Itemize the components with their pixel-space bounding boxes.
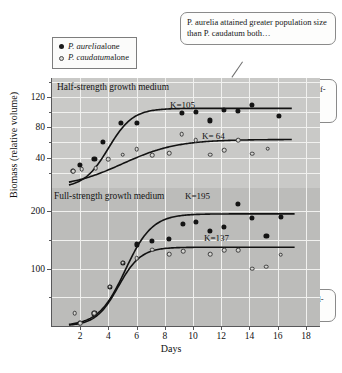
k-label-aurelia-full: K=195 (185, 191, 210, 201)
leader-line-main-callout (231, 61, 243, 78)
data-point-open (278, 252, 283, 257)
data-point-open (106, 157, 111, 162)
logistic-curve (69, 108, 292, 185)
x-tick (193, 326, 194, 330)
legend: P. aurelia alone P. caudatum alone (52, 37, 137, 69)
data-point-open (266, 146, 271, 151)
callout-main-text: P. aurelia attained greater population s… (187, 17, 327, 38)
panel-title-half-strength: Half-strength growth medium (57, 82, 169, 92)
x-tick (137, 326, 138, 330)
x-axis-line (51, 326, 320, 327)
data-point-open (194, 138, 199, 143)
x-tick-label: 6 (134, 331, 139, 341)
x-tick-label: 12 (217, 331, 227, 341)
data-point-open (181, 249, 186, 254)
logistic-curve (69, 140, 292, 183)
filled-circle-icon (59, 44, 64, 49)
plot-area: 246810121416184080120100200 Half-strengt… (52, 78, 320, 326)
open-circle-icon (59, 56, 64, 61)
x-tick-label: 2 (78, 331, 83, 341)
data-point-open (120, 260, 125, 265)
data-point-open (250, 152, 255, 157)
legend-item-suffix: alone (110, 52, 129, 63)
data-point-open (208, 152, 213, 157)
y-tick-label: 80 (36, 122, 46, 132)
data-point-open (179, 132, 184, 137)
logistic-curve (69, 214, 295, 324)
data-point-open (134, 256, 139, 261)
figure-canvas: P. aurelia alone P. caudatum alone P. au… (0, 0, 342, 373)
data-point-open (78, 321, 83, 326)
k-label-caudatum-half: K= 64 (202, 131, 225, 141)
x-tick (108, 326, 109, 330)
x-tick-label: 16 (273, 331, 283, 341)
y-tick-label: 100 (31, 263, 45, 273)
x-tick (165, 326, 166, 330)
legend-species-name: P. caudatum (68, 52, 110, 63)
data-point-open (134, 147, 139, 152)
data-point-open (236, 248, 241, 253)
x-tick (278, 326, 279, 330)
data-point-open (92, 311, 97, 316)
data-point-open (150, 247, 155, 252)
data-point-open (222, 248, 227, 253)
legend-item-suffix: alone (101, 41, 120, 52)
data-point-open (71, 169, 76, 174)
logistic-curve (69, 247, 295, 325)
data-point-open (222, 148, 227, 153)
legend-species-name: P. aurelia (68, 41, 101, 52)
callout-main: P. aurelia attained greater population s… (180, 12, 336, 45)
legend-item-p-aurelia: P. aurelia alone (59, 41, 129, 52)
y-tick-label: 200 (31, 206, 45, 216)
x-tick (80, 326, 81, 330)
k-label-caudatum-full: K=137 (204, 233, 229, 243)
x-tick (221, 326, 222, 330)
data-point-open (167, 252, 172, 257)
x-tick-label: 4 (106, 331, 111, 341)
data-point-open (236, 138, 241, 143)
x-tick (306, 326, 307, 330)
x-tick (249, 326, 250, 330)
y-tick-label: 40 (36, 152, 46, 162)
panel-title-full-strength: Full-strength growth medium (54, 191, 164, 201)
data-point-open (120, 152, 125, 157)
data-point-open (167, 151, 172, 156)
k-label-aurelia-half: K=105 (170, 100, 195, 110)
data-point-open (108, 285, 113, 290)
x-axis-title: Days (0, 343, 342, 354)
y-tick-label: 120 (31, 92, 45, 102)
data-point-open (264, 264, 269, 269)
y-axis-title: Biomass (relative volume) (8, 92, 19, 198)
data-point-open (79, 167, 84, 172)
data-point-open (93, 166, 98, 171)
x-tick-label: 8 (162, 331, 167, 341)
data-point-open (72, 311, 77, 316)
data-point-open (250, 266, 255, 271)
x-tick-label: 10 (188, 331, 198, 341)
data-point-open (208, 252, 213, 257)
x-tick-label: 14 (245, 331, 255, 341)
data-point-open (150, 153, 155, 158)
x-tick-label: 18 (301, 331, 311, 341)
legend-item-p-caudatum: P. caudatum alone (59, 52, 129, 63)
